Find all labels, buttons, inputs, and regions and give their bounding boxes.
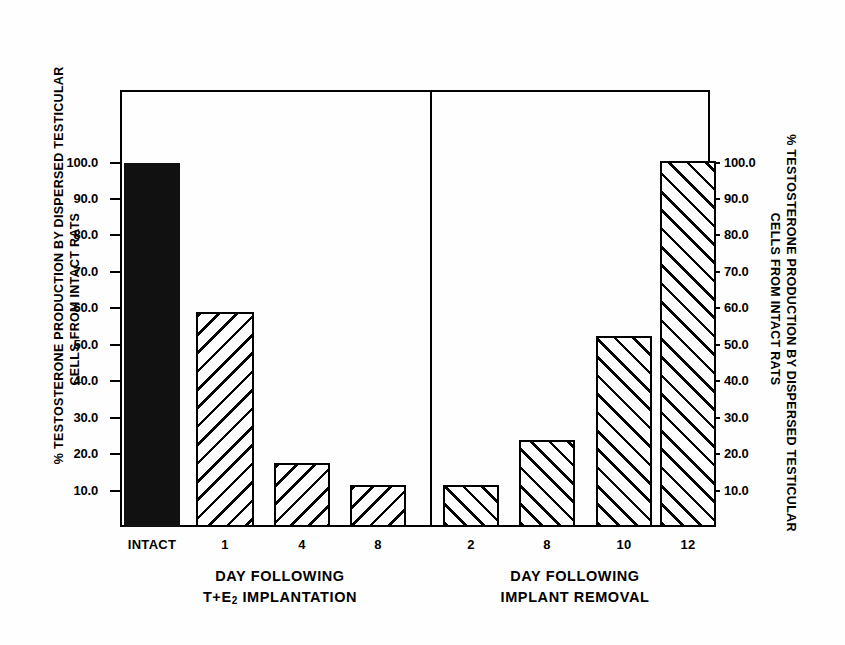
left-axis-tick <box>110 417 121 419</box>
group-caption-implantation-line-2: T+E2 IMPLANTATION <box>150 587 410 608</box>
left-axis-tick <box>110 234 121 236</box>
group-caption-implantation: DAY FOLLOWING T+E2 IMPLANTATION <box>150 566 410 608</box>
left-axis-tick-label: 10.0 <box>38 483 98 498</box>
bar-2-4 <box>443 485 499 527</box>
left-axis-tick <box>110 307 121 309</box>
left-axis-tick-label: 100.0 <box>38 155 98 170</box>
left-axis-tick-label: 80.0 <box>38 227 98 242</box>
left-axis-tick-label: 90.0 <box>38 191 98 206</box>
caption-subscript: 2 <box>232 595 238 606</box>
panel-divider <box>430 90 432 527</box>
bar-8-3 <box>350 485 406 527</box>
bar-1-1 <box>196 312 254 527</box>
figure-bar-chart: % TESTOSTERONE PRODUCTION BY DISPERSED T… <box>0 0 845 645</box>
right-axis-title-line-1: % TESTOSTERONE PRODUCTION BY DISPERSED T… <box>784 134 797 464</box>
left-axis-tick <box>110 490 121 492</box>
left-axis-tick-label: 30.0 <box>38 410 98 425</box>
left-axis-tick-label: 40.0 <box>38 373 98 388</box>
right-axis-tick-label: 100.0 <box>724 155 784 170</box>
left-axis-tick <box>110 271 121 273</box>
left-axis-tick <box>110 198 121 200</box>
left-axis-tick <box>110 344 121 346</box>
left-axis-tick <box>110 162 121 164</box>
left-axis-tick <box>110 380 121 382</box>
group-caption-implantation-line-1: DAY FOLLOWING <box>150 566 410 587</box>
group-caption-removal-line-2: IMPLANT REMOVAL <box>445 587 705 608</box>
bar-12-7 <box>660 161 716 527</box>
right-axis-tick-label: 90.0 <box>724 191 784 206</box>
right-axis-tick-label: 40.0 <box>724 373 784 388</box>
category-label-8-3: 8 <box>328 537 428 552</box>
right-axis-tick-label: 20.0 <box>724 446 784 461</box>
right-axis-tick-label: 60.0 <box>724 300 784 315</box>
bar-8-5 <box>519 440 575 527</box>
right-axis-tick-label: 70.0 <box>724 264 784 279</box>
caption-post: IMPLANTATION <box>238 589 357 605</box>
left-axis-tick <box>110 453 121 455</box>
caption-pre: T+E <box>203 589 232 605</box>
left-axis-tick-label: 20.0 <box>38 446 98 461</box>
right-axis-tick-label: 50.0 <box>724 337 784 352</box>
right-axis-tick-label: 30.0 <box>724 410 784 425</box>
group-caption-removal: DAY FOLLOWING IMPLANT REMOVAL <box>445 566 705 608</box>
right-axis-tick-label: 80.0 <box>724 227 784 242</box>
bar-4-2 <box>274 463 330 527</box>
left-axis-tick-label: 70.0 <box>38 264 98 279</box>
left-axis-tick-label: 50.0 <box>38 337 98 352</box>
group-caption-removal-line-1: DAY FOLLOWING <box>445 566 705 587</box>
bar-10-6 <box>596 336 652 527</box>
right-axis-tick-label: 10.0 <box>724 483 784 498</box>
category-label-12-7: 12 <box>638 537 738 552</box>
bar-intact-0 <box>124 163 180 528</box>
left-axis-tick-label: 60.0 <box>38 300 98 315</box>
